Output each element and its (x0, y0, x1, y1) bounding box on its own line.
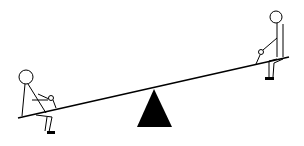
left-person-head (19, 70, 33, 84)
seesaw-illustration (0, 0, 304, 146)
fulcrum-triangle (137, 89, 172, 127)
right-person-figure (256, 11, 283, 77)
left-person-foot (47, 131, 55, 134)
seesaw-scene (0, 0, 304, 146)
left-person-figure (19, 70, 56, 132)
right-person-head (270, 11, 282, 23)
right-person-foot (265, 77, 274, 80)
